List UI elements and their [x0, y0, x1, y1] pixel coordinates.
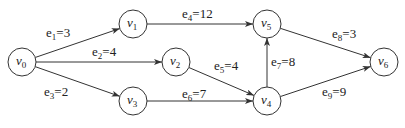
node-v2: v2: [162, 48, 190, 76]
edge-e7: e7=8: [267, 38, 295, 87]
edge-label: e3=2: [44, 84, 68, 101]
edge-label: e5=4: [214, 58, 239, 75]
node-v0: v0: [8, 48, 36, 76]
edge-label: e4=12: [182, 6, 213, 23]
edges-layer: e1=3e2=4e3=2e4=12e5=4e6=7e7=8e8=3e9=9: [35, 6, 371, 103]
node-v3: v3: [119, 87, 147, 115]
edge-e3: e3=2: [35, 67, 120, 101]
node-v4: v4: [253, 87, 281, 115]
edge-label: e9=9: [322, 84, 346, 101]
edge-e2: e2=4: [36, 44, 162, 62]
edge-label: e2=4: [92, 44, 117, 61]
graph-diagram: e1=3e2=4e3=2e4=12e5=4e6=7e7=8e8=3e9=9 v0…: [0, 0, 405, 128]
edge-e9: e9=9: [280, 66, 370, 101]
edge-e4: e4=12: [147, 6, 253, 24]
node-v1: v1: [119, 10, 147, 38]
edge-e8: e8=3: [280, 26, 370, 58]
node-v6: v6: [370, 48, 398, 76]
edge-label: e8=3: [332, 26, 356, 43]
edge-label: e7=8: [271, 54, 295, 71]
node-v5: v5: [253, 10, 281, 38]
edge-label: e1=3: [46, 25, 70, 42]
edge-label: e6=7: [182, 86, 207, 103]
